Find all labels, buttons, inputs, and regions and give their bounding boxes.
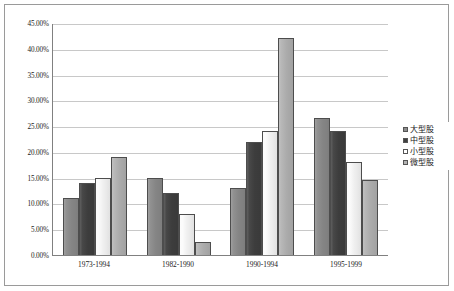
bar[interactable] [346,162,362,255]
legend-item[interactable]: 中型股 [403,135,448,146]
bar-group [221,24,305,255]
chart-frame: 45.00%40.00%35.00%30.00%25.00%20.00%15.0… [4,4,449,286]
bar[interactable] [95,178,111,255]
y-axis-tick-label: 45.00% [27,20,49,28]
legend-item[interactable]: 大型股 [403,124,448,135]
bar[interactable] [147,178,163,255]
legend-swatch-icon [403,160,408,165]
x-axis-tick-label: 1982-1990 [136,260,220,276]
bar-group [304,24,388,255]
y-axis-tick-label: 35.00% [27,72,49,80]
bar[interactable] [330,131,346,255]
legend-swatch-icon [403,138,408,143]
legend-label: 微型股 [410,158,434,168]
bar[interactable] [163,193,179,255]
y-axis: 45.00%40.00%35.00%30.00%25.00%20.00%15.0… [5,24,49,256]
legend-swatch-icon [403,149,408,154]
plot-area [52,24,388,256]
y-axis-tick-label: 5.00% [31,226,49,234]
legend-label: 中型股 [410,136,434,146]
bar[interactable] [230,188,246,255]
y-axis-tick-label: 40.00% [27,46,49,54]
legend-label: 小型股 [410,147,434,157]
y-axis-tick-label: 20.00% [27,149,49,157]
legend-item[interactable]: 微型股 [403,157,448,168]
y-axis-tick-label: 30.00% [27,97,49,105]
bar[interactable] [362,180,378,255]
bar[interactable] [246,142,262,255]
legend-swatch-icon [403,127,408,132]
bar[interactable] [63,198,79,255]
x-axis-tick-label: 1995-1999 [304,260,388,276]
y-axis-tick-label: 25.00% [27,123,49,131]
legend: 大型股中型股小型股微型股 [401,122,450,170]
x-axis-tick-label: 1973-1994 [52,260,136,276]
bar[interactable] [179,214,195,255]
bars-layer [53,24,388,255]
bar[interactable] [195,242,211,255]
y-axis-tick-label: 0.00% [31,252,49,260]
bar[interactable] [262,131,278,255]
chart-container: 45.00%40.00%35.00%30.00%25.00%20.00%15.0… [0,0,454,291]
legend-item[interactable]: 小型股 [403,146,448,157]
bar[interactable] [314,118,330,255]
x-axis: 1973-19941982-19901990-19941995-1999 [52,260,388,276]
bar[interactable] [278,38,294,255]
bar[interactable] [111,157,127,255]
y-axis-tick-label: 15.00% [27,175,49,183]
x-axis-tick-label: 1990-1994 [220,260,304,276]
legend-label: 大型股 [410,125,434,135]
bar-group [137,24,221,255]
bar-group [53,24,137,255]
bar[interactable] [79,183,95,255]
y-axis-tick-label: 10.00% [27,200,49,208]
